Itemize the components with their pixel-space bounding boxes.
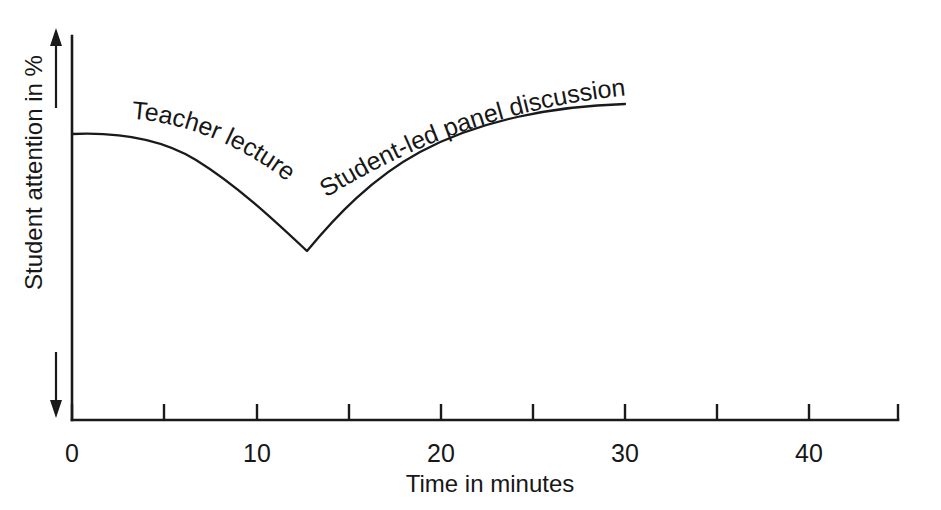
- x-tick-label-30: 30: [611, 439, 639, 467]
- arrow-up-icon: [50, 28, 62, 46]
- arrow-down-icon: [50, 400, 62, 418]
- curve-label-student-panel-text: Student-led panel discussion: [314, 73, 626, 203]
- x-tick-label-10: 10: [243, 439, 271, 467]
- y-axis-arrow-up: [50, 28, 62, 108]
- x-tick-label-40: 40: [795, 439, 823, 467]
- x-axis-group: 0 10 20 30 40: [65, 404, 898, 467]
- x-tick-label-20: 20: [427, 439, 455, 467]
- x-axis-title: Time in minutes: [406, 470, 575, 497]
- x-tick-label-0: 0: [65, 439, 79, 467]
- x-axis-ticks: [72, 404, 898, 420]
- chart-canvas: 0 10 20 30 40 Student attention in % Tim…: [0, 0, 941, 510]
- attention-curve-figure: 0 10 20 30 40 Student attention in % Tim…: [0, 0, 941, 510]
- y-axis-arrow-down: [50, 352, 62, 418]
- y-axis-title: Student attention in %: [20, 55, 47, 290]
- curve-label-student-panel: Student-led panel discussion: [314, 73, 626, 203]
